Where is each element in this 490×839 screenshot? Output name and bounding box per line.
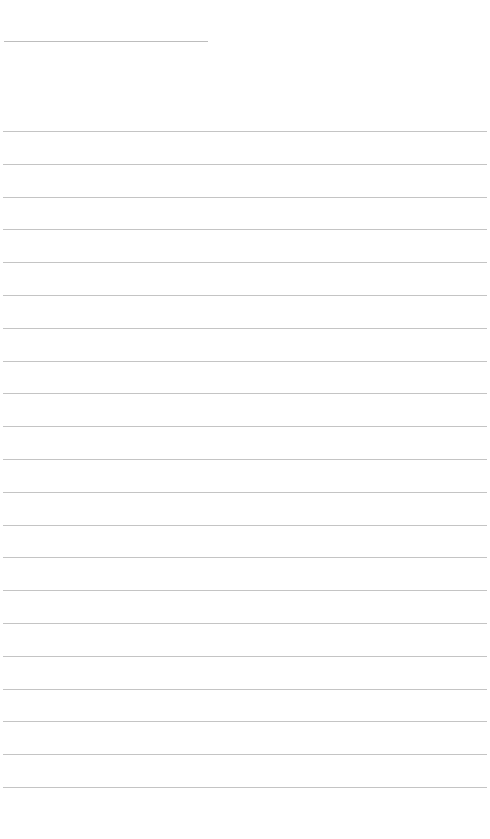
ruled-line[interactable] [3, 492, 487, 493]
ruled-line[interactable] [3, 393, 487, 394]
ruled-line[interactable] [3, 525, 487, 526]
ruled-line[interactable] [3, 721, 487, 722]
ruled-line[interactable] [3, 131, 487, 132]
ruled-line[interactable] [3, 590, 487, 591]
ruled-line[interactable] [3, 787, 487, 788]
ruled-line[interactable] [3, 689, 487, 690]
ruled-line[interactable] [3, 459, 487, 460]
ruled-line[interactable] [3, 557, 487, 558]
ruled-line[interactable] [3, 426, 487, 427]
ruled-line[interactable] [3, 262, 487, 263]
title-line[interactable] [4, 41, 208, 42]
ruled-line[interactable] [3, 361, 487, 362]
ruled-line[interactable] [3, 328, 487, 329]
ruled-line[interactable] [3, 656, 487, 657]
ruled-line[interactable] [3, 164, 487, 165]
ruled-line[interactable] [3, 295, 487, 296]
ruled-line[interactable] [3, 229, 487, 230]
ruled-line[interactable] [3, 623, 487, 624]
lined-page [0, 0, 490, 839]
ruled-line[interactable] [3, 754, 487, 755]
ruled-line[interactable] [3, 197, 487, 198]
